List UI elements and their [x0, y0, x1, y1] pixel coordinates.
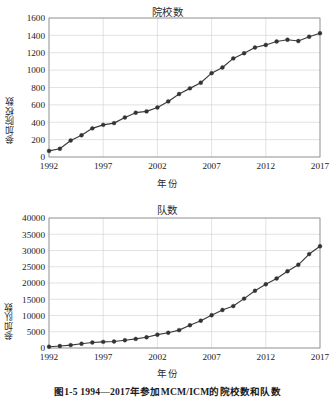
svg-text:35000: 35000 [22, 230, 45, 240]
svg-text:2017: 2017 [311, 352, 330, 362]
svg-text:2017: 2017 [311, 161, 330, 171]
svg-text:2012: 2012 [257, 352, 276, 362]
svg-text:1997: 1997 [94, 352, 113, 362]
svg-text:30000: 30000 [22, 246, 45, 256]
svg-text:1992: 1992 [40, 352, 59, 362]
svg-text:1400: 1400 [27, 31, 46, 41]
x-axis-label-teams: 年份 [0, 366, 335, 380]
plot-area-teams: 0500010000150002000025000300003500040000… [0, 196, 335, 371]
svg-text:2002: 2002 [148, 161, 167, 171]
figure-caption: 图1-5 1994—2017年参加MCM/ICM的院校数和队数 [0, 384, 335, 398]
chart-panel-institutions: 院校数 参加院校数 020040060080010001200140016001… [0, 0, 335, 196]
svg-text:25000: 25000 [22, 262, 45, 272]
svg-text:1000: 1000 [27, 65, 46, 75]
svg-text:15000: 15000 [22, 295, 45, 305]
svg-text:2007: 2007 [202, 161, 221, 171]
svg-text:600: 600 [31, 100, 45, 110]
svg-text:200: 200 [31, 135, 45, 145]
svg-text:1992: 1992 [40, 161, 59, 171]
svg-text:2007: 2007 [202, 352, 221, 362]
x-axis-label-institutions: 年份 [0, 176, 335, 190]
svg-text:2012: 2012 [257, 161, 276, 171]
svg-text:20000: 20000 [22, 278, 45, 288]
chart-panel-teams: 队数 参加队数 05000100001500020000250003000035… [0, 196, 335, 384]
plot-area-institutions: 0200400600800100012001400160019921997200… [0, 0, 335, 175]
svg-text:1200: 1200 [27, 48, 46, 58]
svg-text:10000: 10000 [22, 311, 45, 321]
svg-text:1997: 1997 [94, 161, 113, 171]
svg-text:40000: 40000 [22, 213, 45, 223]
svg-text:1600: 1600 [27, 13, 46, 23]
svg-text:800: 800 [31, 83, 45, 93]
svg-text:400: 400 [31, 118, 45, 128]
svg-text:5000: 5000 [27, 327, 46, 337]
svg-text:2002: 2002 [148, 352, 167, 362]
figure-container: 院校数 参加院校数 020040060080010001200140016001… [0, 0, 335, 398]
